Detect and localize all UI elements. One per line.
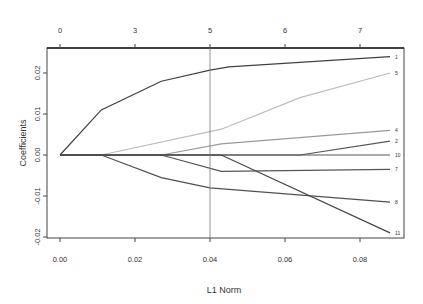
x-axis-label: L1 Norm — [207, 285, 242, 295]
coefficient-path-chart: 0.000.020.040.060.08 -0.02-0.010.000.010… — [0, 0, 423, 304]
x-tick-label: 0.08 — [353, 255, 368, 264]
series-label-11: 11 — [395, 230, 400, 236]
x-tick-label: 0.00 — [53, 255, 68, 264]
y-tick-label: -0.01 — [33, 187, 42, 204]
y-tick-label: 0.01 — [33, 107, 42, 122]
y-axis: -0.02-0.010.000.010.02 — [33, 66, 47, 246]
top-tick-label: 6 — [283, 26, 287, 35]
x-tick-label: 0.04 — [203, 255, 218, 264]
y-tick-label: 0.02 — [33, 66, 42, 81]
series-line-4 — [60, 130, 390, 155]
y-tick-label: -0.02 — [33, 228, 42, 245]
series-label-7: 7 — [395, 166, 398, 172]
x-axis: 0.000.020.040.060.08 — [53, 238, 368, 264]
top-tick-label: 7 — [358, 26, 362, 35]
series-label-1: 1 — [395, 54, 398, 60]
series-label-10: 10 — [395, 152, 401, 158]
series-labels: 1542107811 — [395, 54, 401, 236]
series-label-4: 4 — [395, 127, 398, 133]
series-line-8 — [60, 155, 390, 202]
y-tick-label: 0.00 — [33, 148, 42, 163]
series-label-8: 8 — [395, 199, 398, 205]
top-axis: 03567 — [58, 26, 362, 48]
x-tick-label: 0.06 — [278, 255, 293, 264]
series-line-5 — [60, 73, 390, 155]
series-label-5: 5 — [395, 70, 398, 76]
x-tick-label: 0.02 — [128, 255, 143, 264]
series-line-1 — [60, 57, 390, 155]
plot-lines — [60, 57, 390, 233]
top-tick-label: 5 — [208, 26, 212, 35]
series-label-2: 2 — [395, 138, 398, 144]
series-line-11 — [60, 155, 390, 233]
top-tick-label: 0 — [58, 26, 62, 35]
top-tick-label: 3 — [133, 26, 137, 35]
y-axis-label: Coefficients — [18, 119, 28, 166]
